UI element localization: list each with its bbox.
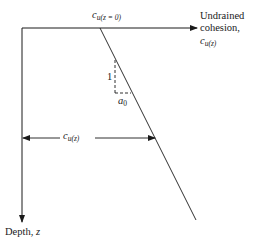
subscript: u(z) bbox=[205, 39, 217, 48]
slope-rise-label: 1 bbox=[107, 71, 112, 83]
y-axis-label-text: Depth, bbox=[5, 226, 36, 237]
subscript: u(z = 0) bbox=[97, 13, 121, 22]
x-axis-label: Undrained cohesion, cu(z) bbox=[200, 10, 244, 50]
surface-cohesion-label: cu(z = 0) bbox=[92, 9, 121, 24]
symbol: z bbox=[36, 226, 40, 237]
x-axis-label-line2: cohesion, bbox=[200, 22, 244, 34]
cohesion-profile-line bbox=[100, 28, 196, 220]
depth-cohesion-label: cu(z) bbox=[63, 130, 79, 145]
subscript: u(z) bbox=[68, 134, 80, 143]
y-axis-label: Depth, z bbox=[5, 226, 40, 238]
slope-run-label: a0 bbox=[118, 95, 127, 110]
subscript: 0 bbox=[123, 99, 127, 108]
x-axis-label-line1: Undrained bbox=[200, 10, 244, 22]
